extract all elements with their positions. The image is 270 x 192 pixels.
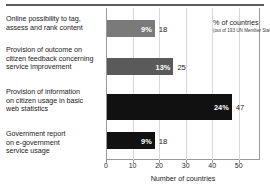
x-tick-label-10: 10 (129, 162, 137, 169)
category-label-1-line-3: service improvement (6, 63, 102, 72)
category-label-2: Provision of information on citizen usag… (6, 88, 102, 114)
bar-2-percent-label: 24% (214, 103, 229, 112)
bar-2[interactable]: 24% (107, 94, 232, 120)
figure-top-rule (6, 4, 264, 6)
bar-0-value-label: 18 (159, 24, 167, 33)
x-axis-title: Number of countries (106, 174, 260, 183)
category-label-3: Government report on e-government servic… (6, 130, 102, 156)
bar-1-percent-label: 13% (156, 62, 171, 71)
category-label-1: Provision of outcome on citizen feedback… (6, 46, 102, 72)
bar-3-value-label: 18 (159, 136, 167, 145)
x-tick-label-50: 50 (235, 162, 243, 169)
bar-2-value-label: 47 (236, 103, 244, 112)
gridline-x-30 (186, 8, 187, 160)
x-tick-label-20: 20 (155, 162, 163, 169)
bar-3[interactable]: 9% (107, 132, 155, 149)
legend: % of countries (out of 193 UN Member Sta… (213, 18, 270, 33)
category-label-0-line-2: assess and rank content (6, 24, 102, 33)
category-label-2-line-3: web statistics (6, 105, 102, 114)
bar-3-percent-label: 9% (141, 136, 152, 145)
x-tick-label-30: 30 (182, 162, 190, 169)
x-tick-label-40: 40 (208, 162, 216, 169)
bar-0-percent-label: 9% (141, 24, 152, 33)
bar-1[interactable]: 13% (107, 58, 173, 75)
category-label-0: Online possibility to tag, assess and ra… (6, 15, 102, 32)
legend-title: % of countries (213, 18, 270, 27)
x-axis-tick-labels: 01020304050 (106, 162, 260, 172)
bar-0[interactable]: 9% (107, 20, 155, 37)
x-tick-label-0: 0 (104, 162, 108, 169)
chart-figure: Online possibility to tag, assess and ra… (0, 0, 270, 192)
bar-1-value-label: 25 (177, 62, 185, 71)
category-label-column: Online possibility to tag, assess and ra… (6, 10, 102, 160)
axis-line-bottom (106, 159, 260, 160)
category-label-3-line-3: service usage (6, 147, 102, 156)
legend-subtitle: (out of 193 UN Member States) (213, 28, 270, 33)
